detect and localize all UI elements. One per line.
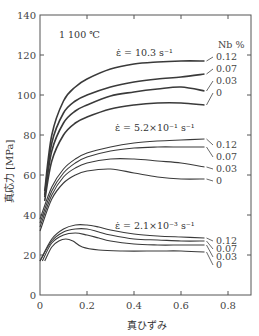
nb-label: 0.03 (216, 163, 237, 174)
nb-label: 0.12 (216, 139, 237, 150)
stress-strain-chart: 00.20.40.60.8020406080100120140 0.120.07… (0, 0, 259, 336)
leader-line (207, 179, 214, 181)
x-tick-label: 0 (37, 300, 43, 311)
nb-label: 0.03 (216, 75, 237, 86)
leader-line (207, 69, 214, 74)
x-tick-label: 0.2 (79, 300, 95, 311)
strain-rate-label-low: ε̇ = 2.1×10⁻³ s⁻¹ (115, 220, 195, 231)
x-tick-label: 0.4 (126, 300, 142, 311)
y-tick-label: 120 (17, 50, 36, 61)
x-axis-title: 真ひずみ (127, 319, 167, 331)
y-tick-label: 40 (23, 210, 36, 221)
leader-line (207, 167, 214, 169)
temperature-annotation: 1 100 ℃ (59, 29, 100, 40)
leader-line (207, 238, 214, 241)
leader-line (207, 245, 214, 257)
nb-label: 0 (216, 87, 222, 98)
nb-label: 0 (216, 259, 222, 270)
curve-nb-0 (45, 239, 205, 261)
y-tick-label: 20 (23, 250, 36, 261)
y-tick-label: 0 (30, 290, 36, 301)
leader-line (207, 252, 214, 265)
leader-line (207, 81, 214, 91)
nb-labels: 0.120.070.0300.120.070.0300.120.070.030 (216, 51, 237, 270)
leader-lines (207, 57, 214, 265)
y-tick-label: 140 (17, 10, 36, 21)
leader-line (207, 57, 214, 61)
y-tick-label: 80 (23, 130, 36, 141)
leader-line (207, 147, 214, 157)
nb-label: 0.07 (216, 151, 237, 162)
y-tick-label: 60 (23, 170, 36, 181)
x-tick-label: 0.6 (173, 300, 189, 311)
y-tick-label: 100 (17, 90, 36, 101)
curve-nb-0_03 (40, 159, 205, 227)
nb-label: 0.07 (216, 63, 237, 74)
strain-rate-label-high: ε̇ = 10.3 s⁻¹ (116, 47, 173, 58)
strain-rate-label-mid: ε̇ = 5.2×10⁻¹ s⁻¹ (115, 122, 195, 133)
leader-line (207, 93, 214, 105)
leader-line (207, 241, 214, 249)
nb-legend-title: Nb % (218, 39, 244, 50)
y-axis-title: 真応力 [MPa] (3, 139, 15, 203)
nb-label: 0.12 (216, 51, 237, 62)
x-tick-label: 0.8 (220, 300, 236, 311)
nb-label: 0 (216, 175, 222, 186)
leader-line (207, 139, 214, 145)
